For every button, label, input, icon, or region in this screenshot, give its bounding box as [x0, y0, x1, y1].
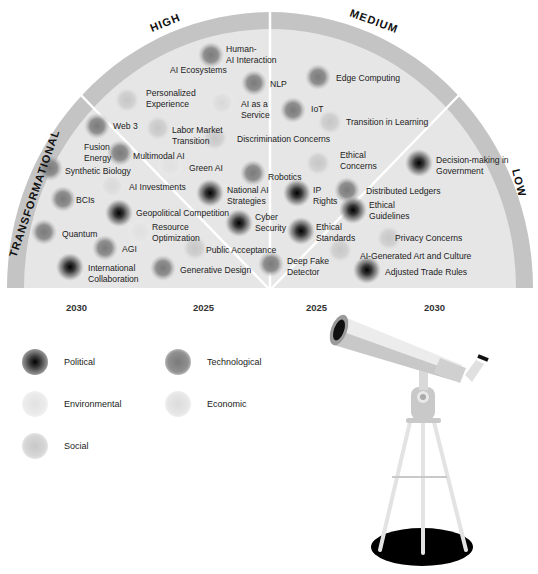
technological-dot-icon — [305, 64, 331, 90]
legend-label: Social — [64, 441, 89, 451]
trend-label: Privacy Concerns — [395, 233, 462, 244]
telescope-tube-icon — [326, 312, 488, 383]
trend-label: Labor Market Transition — [172, 125, 223, 147]
social-dot-icon — [145, 115, 171, 141]
trend-label: AI as a Service — [241, 99, 270, 121]
trend-label: Green AI — [189, 163, 223, 174]
trend-label: Discrimination Concerns — [237, 134, 330, 145]
economic-dot-icon — [165, 391, 191, 417]
trend-label: Ethical Concerns — [340, 150, 377, 172]
technological-dot-icon — [280, 97, 306, 123]
technological-dot-icon — [84, 113, 110, 139]
trend-label: NLP — [270, 79, 287, 90]
social-dot-icon — [22, 433, 48, 459]
technological-dot-icon — [240, 160, 266, 186]
trend-label: AI Investments — [129, 182, 186, 193]
trend-label: National AI Strategies — [227, 185, 269, 207]
technological-dot-icon — [150, 255, 176, 281]
political-dot-icon — [283, 179, 311, 207]
political-dot-icon — [22, 349, 48, 375]
trend-label: Human- AI Interaction — [226, 44, 277, 66]
political-dot-icon — [405, 149, 433, 177]
trend-label: AI Ecosystems — [170, 65, 227, 76]
timeline-year-left-inner: 2025 — [193, 302, 214, 313]
political-dot-icon — [56, 253, 84, 281]
social-dot-icon — [305, 150, 331, 176]
trend-label: Distributed Ledgers — [366, 186, 441, 197]
trend-label: Synthetic Biology — [65, 166, 131, 177]
environmental-dot-icon — [22, 391, 48, 417]
legend-label: Economic — [207, 399, 247, 409]
trend-label: Resource Optimization — [152, 222, 200, 244]
trend-label: Ethical Standards — [316, 222, 355, 244]
legend-item-technological: Technological — [165, 349, 262, 375]
trend-label: Public Acceptance — [206, 245, 276, 256]
social-dot-icon — [114, 87, 140, 113]
trend-label: BCIs — [76, 195, 95, 206]
trend-label: AI-Generated Art and Culture — [360, 251, 471, 262]
legend-item-environmental: Environmental — [22, 391, 122, 417]
political-dot-icon — [105, 199, 133, 227]
political-dot-icon — [196, 179, 224, 207]
political-dot-icon — [287, 217, 315, 245]
trend-label: Web 3 — [113, 121, 138, 132]
technological-dot-icon — [50, 186, 76, 212]
telescope-illustration — [325, 305, 538, 574]
trend-label: International Collaboration — [88, 263, 139, 285]
trend-label: Decision-making in Government — [436, 155, 509, 177]
timeline-year-right-inner: 2025 — [306, 302, 327, 313]
timeline-year-left-outer: 2030 — [66, 302, 87, 313]
legend-item-social: Social — [22, 433, 89, 459]
legend-label: Technological — [207, 357, 262, 367]
trend-label: Personalized Experience — [146, 88, 196, 110]
trend-label: Transition in Learning — [346, 117, 428, 128]
legend-item-economic: Economic — [165, 391, 247, 417]
trend-label: Edge Computing — [336, 73, 400, 84]
trend-label: Robotics — [268, 172, 301, 183]
legend-label: Environmental — [64, 399, 122, 409]
trend-label: Adjusted Trade Rules — [385, 267, 467, 278]
political-dot-icon — [225, 209, 253, 237]
environmental-dot-icon — [127, 219, 153, 245]
technological-dot-icon — [31, 219, 57, 245]
legend-label: Political — [64, 357, 95, 367]
legend-item-political: Political — [22, 349, 95, 375]
technological-dot-icon — [165, 349, 191, 375]
economic-dot-icon — [209, 90, 235, 116]
trend-label: Geopolitical Competition — [136, 208, 229, 219]
trend-label: IoT — [311, 104, 323, 115]
trend-label: Ethical Guidelines — [369, 200, 410, 222]
trend-label: Cyber Security — [255, 212, 286, 234]
political-dot-icon — [339, 196, 367, 224]
trend-label: IP Rights — [313, 185, 337, 207]
trend-label: Quantum — [62, 229, 97, 240]
trend-label: Multimodal AI — [133, 151, 185, 162]
technological-dot-icon — [241, 70, 267, 96]
trend-label: AGI — [122, 244, 137, 255]
trend-label: Fusion Energy — [84, 142, 111, 164]
trend-label: Generative Design — [180, 265, 251, 276]
trend-label: Deep Fake Detector — [287, 256, 329, 278]
